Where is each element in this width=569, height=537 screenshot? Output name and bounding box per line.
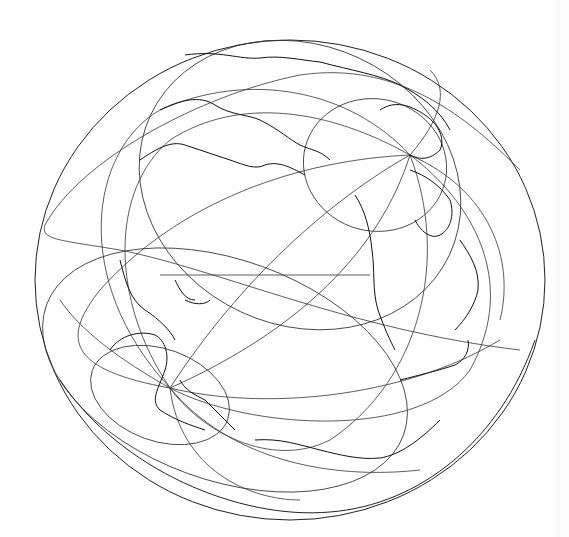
globe-outline [35,40,545,520]
globe-map [0,0,569,537]
graticule [9,0,520,537]
